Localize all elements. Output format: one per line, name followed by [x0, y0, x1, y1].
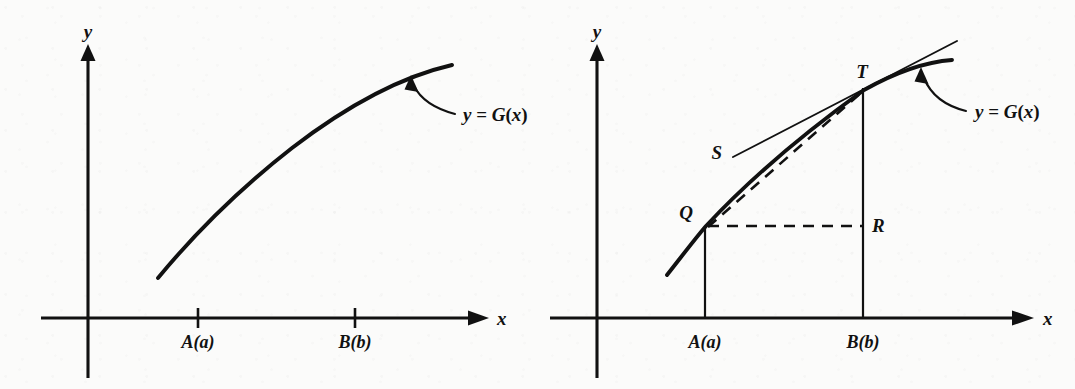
figure-root: x y A(a) B(b) y = G(x) x	[0, 0, 1075, 389]
right-function-label-close: )	[1033, 101, 1039, 123]
left-function-curve	[158, 65, 452, 278]
right-x-axis-label: x	[1042, 308, 1053, 329]
left-function-label-eq: =	[471, 104, 491, 125]
right-y-axis-label: y	[591, 21, 602, 42]
left-function-label-g: G	[492, 104, 506, 125]
right-tangent-line	[733, 41, 957, 157]
left-function-label-y: y	[461, 104, 472, 125]
right-tick-label-b: B(b)	[846, 332, 880, 353]
right-function-label-eq: =	[983, 101, 1003, 122]
left-panel: x y A(a) B(b) y = G(x)	[41, 21, 528, 378]
right-chord-qt	[708, 92, 862, 227]
left-x-axis-arrowhead	[468, 311, 489, 326]
right-y-axis-arrowhead	[590, 44, 605, 61]
left-y-axis-arrowhead	[81, 44, 96, 61]
right-point-label-s: S	[711, 142, 722, 163]
right-function-label-y: y	[973, 101, 984, 122]
right-callout-leader	[924, 78, 966, 111]
right-tick-label-a: A(a)	[688, 332, 722, 353]
left-function-label-x: x	[511, 104, 522, 125]
right-callout-arrowhead	[915, 67, 929, 84]
left-function-label: y = G(x)	[461, 104, 528, 126]
right-panel: x y A(a) B(b) Q R T S	[550, 21, 1053, 378]
right-function-label-x: x	[1023, 101, 1034, 122]
right-function-label: y = G(x)	[973, 101, 1040, 123]
right-point-label-q: Q	[679, 202, 693, 223]
right-point-label-t: T	[856, 61, 869, 82]
left-tick-label-a: A(a)	[181, 332, 215, 353]
left-tick-label-b: B(b)	[338, 332, 372, 353]
math-figure-svg: x y A(a) B(b) y = G(x) x	[0, 0, 1075, 389]
right-function-label-g: G	[1004, 101, 1018, 122]
left-function-label-close: )	[521, 104, 527, 126]
right-function-curve	[667, 60, 952, 275]
left-x-axis-label: x	[496, 308, 507, 329]
right-x-axis-arrowhead	[1012, 311, 1034, 326]
left-callout-leader	[414, 86, 455, 114]
left-y-axis-label: y	[82, 21, 93, 42]
right-point-label-r: R	[871, 215, 885, 236]
